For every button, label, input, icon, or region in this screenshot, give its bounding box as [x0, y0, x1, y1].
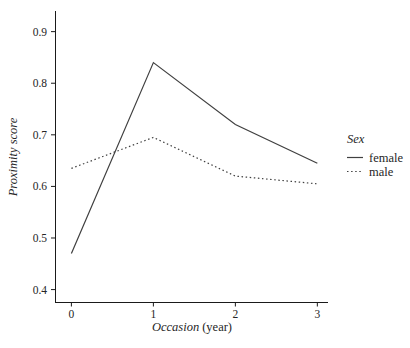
- legend-title: Sex: [347, 132, 365, 146]
- x-tick-label: 1: [151, 308, 157, 320]
- chart-canvas: 0.40.50.60.70.80.9 0123 Proximity score …: [0, 0, 410, 348]
- y-tick-label: 0.4: [33, 284, 48, 296]
- x-axis-label-occasion: Occasion: [152, 320, 199, 334]
- axes: [55, 11, 328, 303]
- male-series-line: [71, 137, 317, 183]
- legend-label-female: female: [369, 151, 403, 165]
- legend-entry-female: female: [347, 151, 403, 165]
- x-axis-label-year: (year): [202, 320, 232, 334]
- y-tick-label: 0.6: [33, 180, 48, 192]
- y-axis-label: Proximity score: [6, 117, 20, 197]
- proximity-line-chart: 0.40.50.60.70.80.9 0123 Proximity score …: [0, 0, 410, 348]
- plot-series: [71, 63, 317, 254]
- y-tick-label: 0.8: [33, 77, 48, 89]
- legend-label-male: male: [369, 165, 394, 179]
- legend: Sex female male: [347, 132, 403, 179]
- y-axis-ticks: 0.40.50.60.70.80.9: [33, 26, 55, 296]
- y-tick-label: 0.9: [33, 26, 48, 38]
- x-tick-label: 3: [314, 308, 320, 320]
- y-tick-label: 0.5: [33, 232, 48, 244]
- x-axis-ticks: 0123: [69, 303, 321, 321]
- x-axis-label: Occasion(year): [152, 320, 232, 334]
- x-tick-label: 2: [232, 308, 238, 320]
- x-tick-label: 0: [69, 308, 75, 320]
- legend-entry-male: male: [347, 165, 394, 179]
- female-series-line: [71, 63, 317, 254]
- y-tick-label: 0.7: [33, 129, 48, 141]
